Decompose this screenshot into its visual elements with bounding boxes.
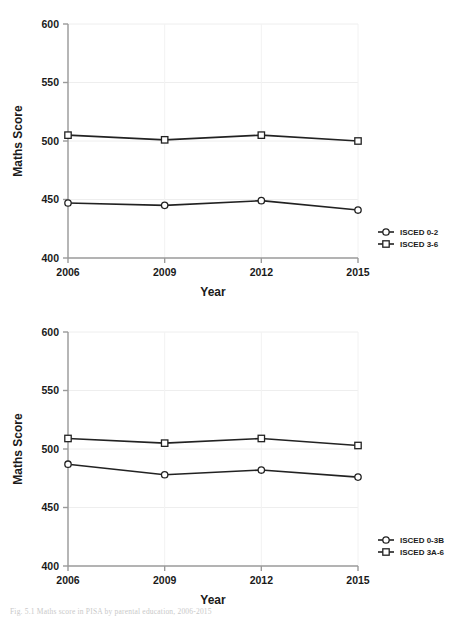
y-axis-tick-label: 450 — [41, 193, 59, 205]
series-line-0 — [68, 464, 358, 477]
data-point-marker-circle[interactable] — [161, 202, 167, 208]
line-chart-top: 4004505005506002006200920122015YearMaths… — [0, 0, 469, 305]
x-axis-tick-label: 2012 — [250, 266, 274, 278]
x-axis-title: Year — [200, 285, 226, 299]
data-point-marker-circle[interactable] — [355, 474, 361, 480]
data-point-marker-square[interactable] — [161, 440, 167, 446]
chart-panel-top: 4004505005506002006200920122015YearMaths… — [0, 0, 469, 305]
x-axis-tick-label: 2015 — [346, 266, 370, 278]
legend-marker-square — [383, 241, 389, 247]
data-point-marker-square[interactable] — [65, 435, 71, 441]
y-axis-tick-label: 600 — [41, 18, 59, 30]
legend-marker-circle — [383, 229, 389, 235]
data-point-marker-square[interactable] — [161, 137, 167, 143]
data-point-marker-square[interactable] — [258, 435, 264, 441]
legend: ISCED 0-2ISCED 3-6 — [378, 228, 439, 249]
data-point-marker-circle[interactable] — [161, 472, 167, 478]
legend-label-0[interactable]: ISCED 0-2 — [400, 228, 439, 237]
legend-label-0[interactable]: ISCED 0-3B — [400, 536, 444, 545]
x-axis-title: Year — [200, 593, 226, 607]
data-point-marker-square[interactable] — [355, 138, 361, 144]
series-line-1 — [68, 135, 358, 141]
data-point-marker-circle[interactable] — [65, 200, 71, 206]
data-point-marker-square[interactable] — [65, 132, 71, 138]
y-axis-tick-label: 550 — [41, 76, 59, 88]
x-axis-tick-label: 2006 — [56, 266, 80, 278]
x-axis-tick-label: 2015 — [346, 574, 370, 586]
data-point-marker-square[interactable] — [258, 132, 264, 138]
legend-label-1[interactable]: ISCED 3-6 — [400, 240, 439, 249]
line-chart-bottom: 4004505005506002006200920122015YearMaths… — [0, 308, 469, 613]
x-axis-tick-label: 2006 — [56, 574, 80, 586]
series-line-0 — [68, 201, 358, 210]
series-line-1 — [68, 438, 358, 445]
x-axis-tick-label: 2012 — [250, 574, 274, 586]
data-point-marker-circle[interactable] — [258, 467, 264, 473]
y-axis-tick-label: 500 — [41, 443, 59, 455]
x-axis-tick-label: 2009 — [153, 574, 177, 586]
data-point-marker-circle[interactable] — [65, 461, 71, 467]
legend-marker-circle — [383, 537, 389, 543]
chart-panel-bottom: 4004505005506002006200920122015YearMaths… — [0, 308, 469, 613]
legend-marker-square — [383, 549, 389, 555]
figure-container: 4004505005506002006200920122015YearMaths… — [0, 0, 469, 620]
legend-label-1[interactable]: ISCED 3A-6 — [400, 548, 445, 557]
y-axis-tick-label: 450 — [41, 501, 59, 513]
y-axis-tick-label: 400 — [41, 252, 59, 264]
figure-caption: Fig. 5.1 Maths score in PISA by parental… — [10, 607, 465, 616]
y-axis-title: Maths Score — [11, 105, 25, 177]
y-axis-tick-label: 600 — [41, 326, 59, 338]
x-axis-tick-label: 2009 — [153, 266, 177, 278]
data-point-marker-circle[interactable] — [258, 197, 264, 203]
y-axis-tick-label: 550 — [41, 384, 59, 396]
data-point-marker-circle[interactable] — [355, 207, 361, 213]
data-point-marker-square[interactable] — [355, 442, 361, 448]
legend: ISCED 0-3BISCED 3A-6 — [378, 536, 445, 557]
y-axis-tick-label: 400 — [41, 560, 59, 572]
y-axis-tick-label: 500 — [41, 135, 59, 147]
y-axis-title: Maths Score — [11, 413, 25, 485]
